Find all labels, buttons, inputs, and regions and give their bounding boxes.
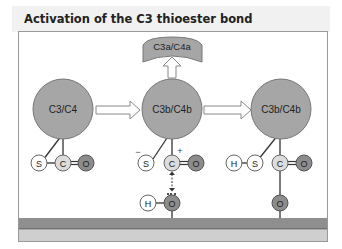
protein-label: C3/C4 — [49, 104, 78, 115]
lone-pair-dot — [174, 193, 176, 195]
atom-label: S — [252, 159, 258, 169]
arrow-head-down-icon — [169, 188, 175, 192]
atom-label: C — [169, 159, 176, 169]
thioester-diagram: C3/C4 S C O C3a/C4a C3b/C4b − + S C O — [0, 0, 342, 249]
atom-label: S — [143, 159, 149, 169]
arrow-right-icon — [96, 101, 140, 119]
negative-charge: − — [135, 147, 140, 157]
arrow-right-icon — [204, 101, 251, 119]
atom-label: C — [60, 159, 67, 169]
atom-label: H — [231, 159, 238, 169]
atom-label: O — [300, 159, 307, 169]
atom-label: C — [277, 159, 284, 169]
atom-label: S — [36, 159, 42, 169]
atom-label: O — [82, 159, 89, 169]
fragment-label: C3a/C4a — [153, 41, 191, 52]
protein-label: C3b/C4b — [261, 104, 301, 115]
protein-label: C3b/C4b — [152, 104, 192, 115]
stage-1: C3/C4 S C O — [31, 79, 94, 171]
stage-2: C3a/C4a C3b/C4b − + S C O H O — [135, 37, 204, 218]
membrane-bottom-layer — [19, 230, 327, 241]
atom-label: O — [168, 199, 175, 209]
atom-label: O — [192, 159, 199, 169]
atom-label: H — [145, 199, 152, 209]
arrow-up-icon — [163, 57, 181, 78]
lone-pair-dot — [167, 193, 169, 195]
membrane-top-layer — [19, 218, 327, 229]
arrow-head-up-icon — [169, 172, 175, 176]
stage-3: C3b/C4b H S C O O — [226, 79, 312, 218]
atom-label: O — [276, 199, 283, 209]
positive-charge: + — [177, 146, 182, 156]
